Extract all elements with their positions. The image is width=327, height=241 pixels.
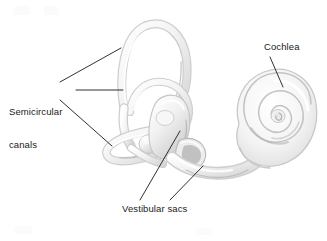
leader-semicircular-lower (60, 100, 112, 146)
leader-semicircular-upper (60, 48, 121, 82)
label-semicircular-canals: Semicircular canals (9, 84, 62, 172)
label-semicircular-canals-line2: canals (9, 139, 62, 150)
label-cochlea: Cochlea (264, 41, 300, 52)
cochlea (237, 69, 317, 168)
vestibular-sac-bulge (156, 111, 174, 126)
label-semicircular-canals-line1: Semicircular (9, 106, 62, 117)
inner-ear-diagram: Semicircular canals Cochlea Vestibular s… (0, 0, 327, 241)
label-vestibular-sacs: Vestibular sacs (122, 203, 187, 214)
